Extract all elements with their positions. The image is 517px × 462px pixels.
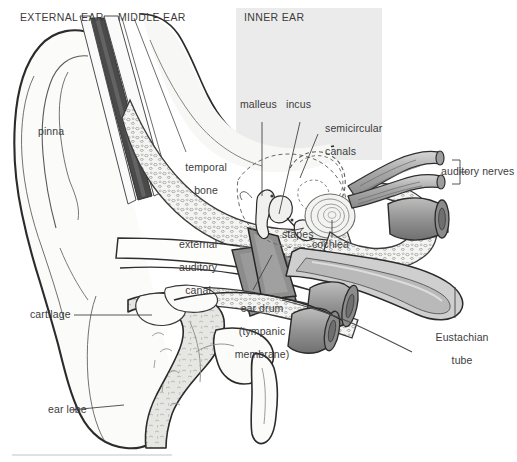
label-temporal-bone: temporal bone <box>168 150 232 208</box>
label-auditory-nerves: auditory nerves <box>441 166 514 178</box>
label-cartilage: cartilage <box>30 309 71 321</box>
figure-canvas: EXTERNAL EAR MIDDLE EAR INNER EAR pinna … <box>0 0 517 462</box>
label-semicircular-line2: canals <box>325 145 356 157</box>
region-label-middle-ear: MIDDLE EAR <box>118 12 186 24</box>
label-eustachian-line2: tube <box>452 354 473 366</box>
label-cochlea: cochlea <box>312 239 349 251</box>
label-malleus: malleus <box>240 99 277 111</box>
label-eustachian-tube: Eustachian tube <box>420 320 492 378</box>
label-eustachian-line1: Eustachian <box>436 331 489 343</box>
label-semicircular-canals: semicircular canals <box>313 111 382 169</box>
region-label-external-ear: EXTERNAL EAR <box>20 12 104 24</box>
label-ear-drum: ear drum (tympanic membrane) <box>214 291 298 372</box>
incus-bone <box>269 196 293 223</box>
label-temporal-bone-line1: temporal <box>185 161 227 173</box>
label-temporal-bone-line2: bone <box>194 184 218 196</box>
label-pinna: pinna <box>38 126 64 138</box>
label-stapes: stapes <box>282 229 314 241</box>
ear-anatomy-illustration <box>0 0 517 462</box>
ossicle-ligament <box>240 192 252 200</box>
nerve-cut-end-upper <box>436 151 444 165</box>
label-eac-line1: external <box>179 238 217 250</box>
region-label-inner-ear: INNER EAR <box>244 12 304 24</box>
label-eac-line3: canal <box>185 284 211 296</box>
label-incus: incus <box>286 99 311 111</box>
label-ear-drum-line2: (tympanic <box>239 325 285 337</box>
label-semicircular-line1: semicircular <box>325 122 382 134</box>
label-ear-lobe: ear lobe <box>48 404 87 416</box>
label-ear-drum-line3: membrane) <box>235 348 290 360</box>
ossicle-joint-b <box>291 219 294 222</box>
cut-cylinder-upper-inner <box>439 208 446 230</box>
label-ear-drum-line1: ear drum <box>241 302 284 314</box>
ossicle-joint-a <box>270 194 273 197</box>
label-eac-line2: auditory <box>179 261 217 273</box>
